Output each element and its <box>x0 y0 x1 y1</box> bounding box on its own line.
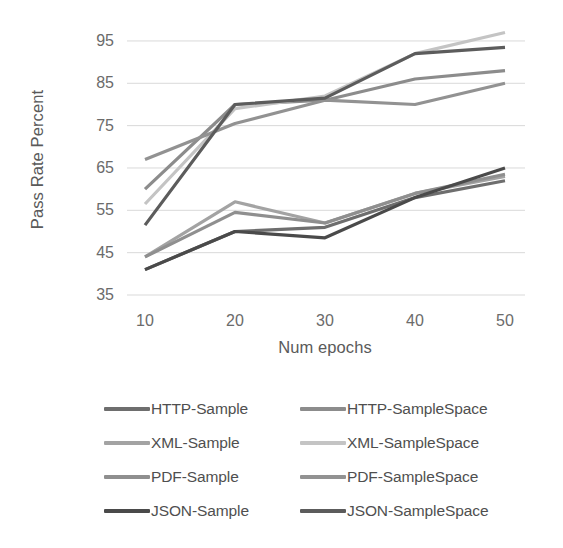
series-line-http-samplespace <box>145 71 505 190</box>
legend-item[interactable]: HTTP-Sample <box>104 392 300 426</box>
plot-area: Pass Rate Percent 35455565758595 1020304… <box>0 0 563 380</box>
series-line-xml-sample <box>145 176 505 257</box>
y-tick-label: 55 <box>72 202 114 218</box>
y-tick-label: 45 <box>72 245 114 261</box>
legend-item[interactable]: JSON-SampleSpace <box>300 494 524 528</box>
y-tick-label: 75 <box>72 118 114 134</box>
legend-item[interactable]: XML-Sample <box>104 426 300 460</box>
legend-item[interactable]: PDF-Sample <box>104 460 300 494</box>
x-tick-label: 10 <box>123 313 167 329</box>
legend-item[interactable]: HTTP-SampleSpace <box>300 392 524 426</box>
legend-label: XML-SampleSpace <box>347 434 479 452</box>
legend-swatch-icon <box>300 509 346 513</box>
y-tick-label: 95 <box>72 33 114 49</box>
legend-label: PDF-Sample <box>151 468 239 486</box>
legend-swatch-icon <box>300 407 346 411</box>
x-tick-label: 30 <box>303 313 347 329</box>
y-tick-label: 35 <box>72 287 114 303</box>
y-tick-label: 65 <box>72 160 114 176</box>
x-tick-label: 20 <box>213 313 257 329</box>
x-axis-title: Num epochs <box>145 338 505 357</box>
legend-label: HTTP-SampleSpace <box>347 400 488 418</box>
line-chart: Pass Rate Percent 35455565758595 1020304… <box>0 0 563 548</box>
legend-item[interactable]: JSON-Sample <box>104 494 300 528</box>
legend-label: PDF-SampleSpace <box>347 468 478 486</box>
legend-label: JSON-Sample <box>151 502 249 520</box>
x-tick-label: 40 <box>393 313 437 329</box>
legend-label: JSON-SampleSpace <box>347 502 488 520</box>
series-line-xml-samplespace <box>145 33 505 205</box>
legend-label: HTTP-Sample <box>151 400 248 418</box>
legend-swatch-icon <box>300 441 346 445</box>
legend-swatch-icon <box>104 407 150 411</box>
plot-canvas <box>0 0 563 380</box>
legend-label: XML-Sample <box>151 434 240 452</box>
legend-swatch-icon <box>104 441 150 445</box>
chart-legend: HTTP-SampleHTTP-SampleSpaceXML-SampleXML… <box>104 392 524 532</box>
legend-swatch-icon <box>104 475 150 479</box>
legend-swatch-icon <box>300 475 346 479</box>
legend-item[interactable]: PDF-SampleSpace <box>300 460 524 494</box>
x-tick-label: 50 <box>483 313 527 329</box>
legend-item[interactable]: XML-SampleSpace <box>300 426 524 460</box>
legend-swatch-icon <box>104 509 150 513</box>
series-line-json-sample <box>145 168 505 270</box>
y-tick-label: 85 <box>72 75 114 91</box>
series-lines <box>145 33 505 270</box>
